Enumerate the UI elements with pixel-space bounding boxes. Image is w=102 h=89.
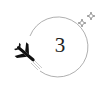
badge-graphic	[0, 0, 102, 89]
badge-number: 3	[52, 33, 68, 57]
sparkle-icon	[78, 12, 95, 27]
trail-lines	[31, 61, 42, 70]
airplane-icon	[11, 39, 40, 68]
